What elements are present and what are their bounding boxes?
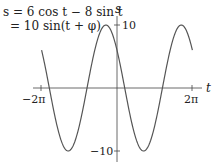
tick-label-2pi: 2π bbox=[184, 93, 198, 106]
tick-label-neg-10: −10 bbox=[90, 145, 113, 158]
tick-label-neg-2pi: −2π bbox=[22, 93, 45, 106]
t-axis-label: t bbox=[206, 81, 211, 95]
equation-line-2: = 10 sin(t + φ) bbox=[10, 19, 101, 33]
chart: s = 6 cos t − 8 sin t = 10 sin(t + φ) s … bbox=[0, 0, 220, 164]
equation-line-1: s = 6 cos t − 8 sin t bbox=[3, 5, 123, 19]
tick-label-10: 10 bbox=[122, 19, 136, 32]
s-axis-label: s bbox=[115, 2, 121, 16]
